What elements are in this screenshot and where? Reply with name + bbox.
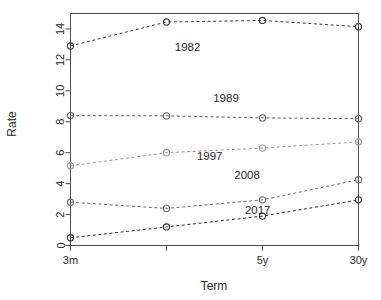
- series-label-1982: 1982: [175, 41, 201, 53]
- x-tick-label: 5y: [257, 254, 269, 266]
- y-tick-label: 8: [55, 119, 67, 125]
- x-axis-title: Term: [201, 279, 228, 293]
- y-tick-label: 2: [55, 212, 67, 218]
- series-label-2008: 2008: [234, 169, 260, 181]
- chart-canvas: 02468101214 3m5y30y 19821989199720082017…: [0, 0, 381, 300]
- y-tick-label: 10: [55, 85, 67, 97]
- y-tick-label: 4: [55, 181, 67, 187]
- y-tick-label: 12: [55, 54, 67, 66]
- y-tick-label: 14: [55, 23, 67, 35]
- y-axis-title: Rate: [5, 111, 19, 137]
- y-tick-label: 6: [55, 150, 67, 156]
- series-label-1989: 1989: [213, 92, 239, 104]
- rate-term-chart: 02468101214 3m5y30y 19821989199720082017…: [0, 0, 381, 300]
- series-label-2017: 2017: [245, 204, 271, 216]
- x-tick-label: 30y: [350, 254, 368, 266]
- x-tick-label: 3m: [63, 254, 78, 266]
- series-label-1997: 1997: [197, 150, 223, 162]
- y-tick-label: 0: [55, 242, 67, 248]
